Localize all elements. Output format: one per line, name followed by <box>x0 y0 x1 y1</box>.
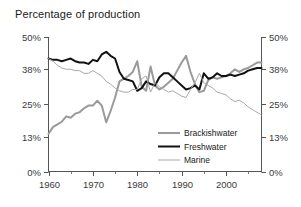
y-axis-tick-label-left: 13% <box>22 132 42 143</box>
y-axis-tick-label-left: 0% <box>27 167 41 178</box>
data-series-group <box>49 52 262 134</box>
x-axis-tick-label: 1970 <box>83 179 104 190</box>
y-axis-labels-right: 0%13%25%38%50% <box>269 32 289 178</box>
line-chart: 0%13%25%38%50% 0%13%25%38%50% 1960197019… <box>0 0 301 207</box>
x-axis-tick-label: 1960 <box>39 179 60 190</box>
legend-label-marine: Marine <box>184 155 210 165</box>
axis-lines <box>49 37 263 172</box>
y-axis-tick-label-left: 50% <box>22 32 42 43</box>
chart-page: Percentage of production 0%13%25%38%50% … <box>0 0 301 207</box>
y-axis-ticks-left <box>44 38 49 173</box>
x-axis-tick-label: 1980 <box>127 179 148 190</box>
x-axis-tick-label: 1990 <box>172 179 193 190</box>
legend-label-freshwater: Freshwater <box>184 142 227 152</box>
x-axis-tick-label: 2000 <box>216 179 237 190</box>
y-axis-tick-label-left: 25% <box>22 99 42 110</box>
legend-label-brackishwater: Brackishwater <box>184 128 238 138</box>
y-axis-tick-label-right: 25% <box>269 99 289 110</box>
chart-legend: BrackishwaterFreshwaterMarine <box>158 128 238 165</box>
x-axis-ticks <box>50 172 249 177</box>
y-axis-tick-label-right: 13% <box>269 132 289 143</box>
x-axis-labels: 19601970198019902000 <box>39 179 237 190</box>
y-axis-ticks-right <box>262 38 267 173</box>
y-axis-tick-label-left: 38% <box>22 64 42 75</box>
y-axis-labels-left: 0%13%25%38%50% <box>22 32 42 178</box>
y-axis-tick-label-right: 38% <box>269 64 289 75</box>
y-axis-tick-label-right: 50% <box>269 32 289 43</box>
y-axis-tick-label-right: 0% <box>269 167 283 178</box>
series-line-brackishwater <box>49 56 262 134</box>
